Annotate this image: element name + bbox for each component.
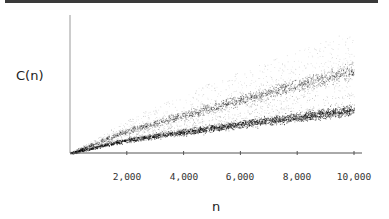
x-tick-label-8000: 8,000	[283, 171, 312, 182]
x-tick-label-6000: 6,000	[226, 171, 255, 182]
x-tick-label-10000: 10,000	[337, 171, 371, 182]
x-tick-label-2000: 2,000	[113, 171, 142, 182]
x-axis-label: n	[212, 199, 220, 214]
x-tick-label-4000: 4,000	[170, 171, 199, 182]
y-axis-label: C(n)	[16, 68, 43, 83]
data-points	[70, 36, 355, 155]
scatter-plot	[0, 0, 389, 219]
